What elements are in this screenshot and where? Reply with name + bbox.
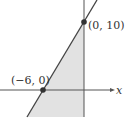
point-label-neg6-0: (−6, 0) xyxy=(11,74,50,87)
x-axis-label: x xyxy=(116,84,123,97)
point-label-0-10: (0, 10) xyxy=(88,19,125,32)
inequality-graph: (0, 10) (−6, 0) x xyxy=(0,0,127,134)
x-axis-arrow-icon xyxy=(110,88,115,92)
point-neg6-0 xyxy=(40,87,46,93)
point-0-10 xyxy=(81,19,87,25)
